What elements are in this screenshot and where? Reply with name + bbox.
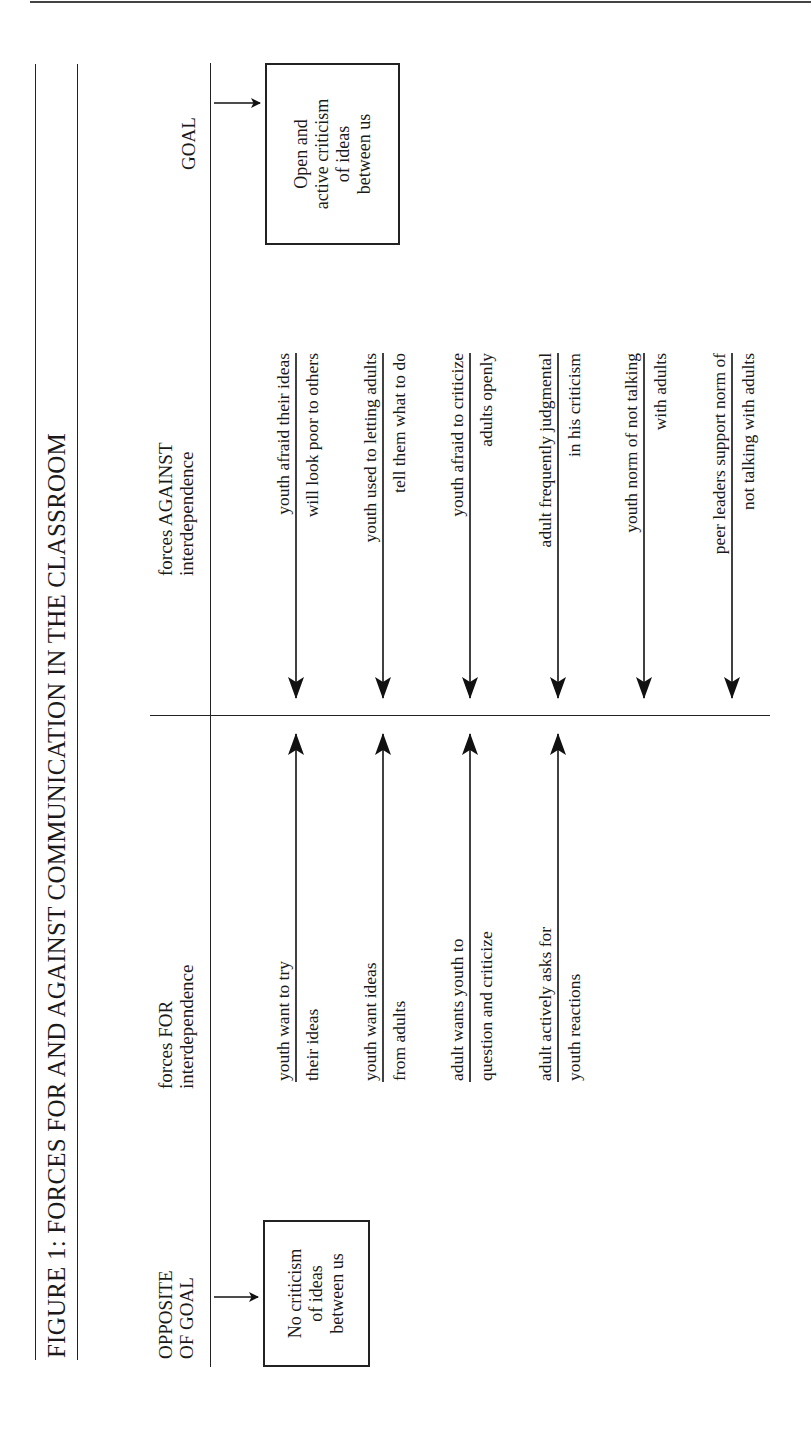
force-against-1-line2: will look poor to others (302, 353, 322, 517)
force-for-2-line1: youth want ideas (360, 962, 380, 1081)
force-against-3-line1: youth afraid to criticize (447, 353, 467, 517)
force-for-2-line2: from adults (389, 1001, 409, 1081)
force-against-6-line2: not talking with adults (738, 353, 758, 510)
force-against-5-line2: with adults (650, 353, 670, 430)
force-for-1-line2: their ideas (302, 1009, 322, 1081)
force-field-diagram: FIGURE 1: FORCES FOR AND AGAINST COMMUNI… (0, 0, 811, 1431)
force-against-5-line1: youth norm of not talking (621, 353, 641, 533)
forces-for-arrows (296, 734, 558, 1082)
force-against-4-line1: adult frequently judgmental (535, 353, 555, 547)
force-against-2-line1: youth used to letting adults (360, 353, 380, 543)
force-against-2-line2: tell them what to do (389, 353, 409, 493)
force-for-3-line1: adult wants youth to (447, 939, 467, 1081)
force-for-4-line1: adult actively asks for (535, 927, 555, 1081)
force-against-3-line2: adults openly (476, 353, 496, 447)
force-against-4-line2: in his criticism (564, 353, 584, 457)
force-for-1-line1: youth want to try (273, 961, 293, 1081)
force-against-6-line1: peer leaders support norm of (709, 353, 729, 554)
force-for-3-line2: question and criticize (476, 931, 496, 1081)
force-for-4-line2: youth reactions (564, 974, 584, 1081)
arrows-layer (0, 0, 811, 1431)
force-against-1-line1: youth afraid their ideas (273, 353, 293, 515)
